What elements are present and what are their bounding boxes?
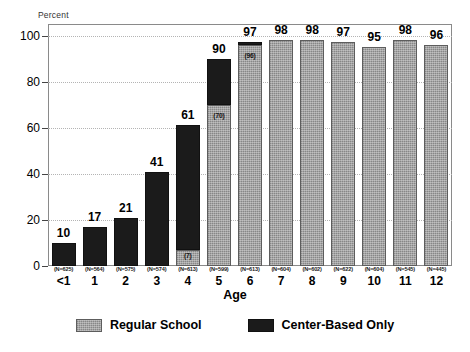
bar-group[interactable]: 97 — [331, 24, 355, 266]
bar-group[interactable]: 96 — [424, 24, 448, 266]
legend-item[interactable]: Regular School — [76, 318, 202, 332]
y-tick-label: 60 — [6, 121, 40, 135]
y-tick-label: 80 — [6, 75, 40, 89]
bar-group[interactable]: 17 — [83, 24, 107, 266]
legend-swatch-black — [248, 319, 274, 332]
bar-segment-regular-school[interactable] — [269, 40, 293, 266]
bar-value-label: 10 — [44, 226, 84, 240]
y-tick-label: 40 — [6, 167, 40, 181]
bar-group[interactable]: 41 — [145, 24, 169, 266]
bar-segment-center-based-only[interactable] — [52, 243, 76, 266]
bar-segment-center-based-only[interactable] — [207, 59, 231, 105]
bars-layer: 10172141(7)61(70)90(96)97989897959896 — [48, 24, 452, 266]
y-tick-label: 20 — [6, 213, 40, 227]
bar-segment-regular-school[interactable] — [362, 47, 386, 266]
bar-group[interactable]: 95 — [362, 24, 386, 266]
bar-segment-label: (70) — [208, 112, 230, 119]
bar-value-label: 41 — [137, 155, 177, 169]
bar-value-label: 21 — [106, 201, 146, 215]
bar-value-label: 90 — [199, 42, 239, 56]
bar-group[interactable]: (70)90 — [207, 24, 231, 266]
bar-segment-center-based-only[interactable] — [83, 227, 107, 266]
chart-container: Percent 020406080100 10172141(7)61(70)90… — [0, 0, 470, 352]
y-axis-caption: Percent — [38, 10, 69, 20]
bar-group[interactable]: 21 — [114, 24, 138, 266]
bar-group[interactable]: (96)97 — [238, 24, 262, 266]
bar-segment-regular-school[interactable]: (70) — [207, 105, 231, 266]
bar-segment-regular-school[interactable]: (96) — [238, 45, 262, 266]
bar-segment-regular-school[interactable] — [300, 40, 324, 266]
x-axis-title: Age — [0, 288, 470, 302]
bar-segment-center-based-only[interactable] — [145, 172, 169, 266]
bar-group[interactable]: (7)61 — [176, 24, 200, 266]
y-tick-label: 100 — [6, 29, 40, 43]
bar-value-label: 96 — [416, 28, 456, 42]
bar-group[interactable]: 10 — [52, 24, 76, 266]
legend-label: Center-Based Only — [282, 318, 395, 332]
y-tick-label: 0 — [6, 259, 40, 273]
bar-group[interactable]: 98 — [269, 24, 293, 266]
bar-value-label: 61 — [168, 108, 208, 122]
x-tick: (N=445)12 — [414, 266, 458, 288]
x-tick-label: 12 — [414, 274, 458, 288]
bar-segment-label: (96) — [239, 52, 261, 59]
legend-label: Regular School — [110, 318, 202, 332]
bar-segment-label: (7) — [177, 252, 199, 259]
bar-segment-center-based-only[interactable] — [176, 125, 200, 249]
bar-segment-center-based-only[interactable] — [238, 42, 262, 45]
bar-group[interactable]: 98 — [300, 24, 324, 266]
bar-segment-regular-school[interactable] — [331, 42, 355, 266]
bar-segment-regular-school[interactable] — [393, 40, 417, 266]
bar-group[interactable]: 98 — [393, 24, 417, 266]
bar-segment-regular-school[interactable] — [424, 45, 448, 266]
bar-segment-center-based-only[interactable] — [114, 218, 138, 266]
bar-segment-regular-school[interactable]: (7) — [176, 250, 200, 266]
chart-legend: Regular SchoolCenter-Based Only — [0, 318, 470, 332]
sample-size-label: (N=445) — [414, 266, 458, 273]
legend-item[interactable]: Center-Based Only — [248, 318, 395, 332]
legend-swatch-gray — [76, 319, 102, 332]
